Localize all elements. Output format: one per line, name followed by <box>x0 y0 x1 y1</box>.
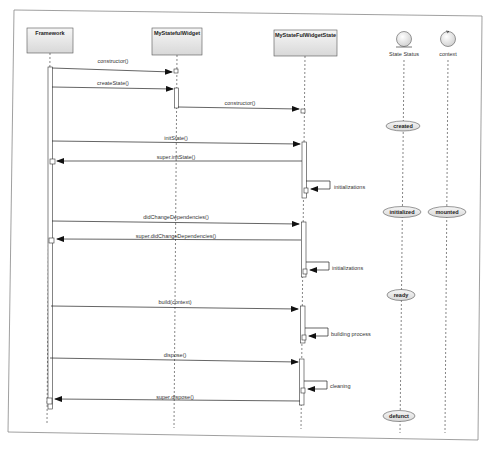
participant-label: State Status <box>389 51 419 57</box>
svg-text:created: created <box>393 123 413 129</box>
participant-label: Framework <box>35 30 65 36</box>
message-label: didChangeDependencies() <box>143 214 209 220</box>
svg-text:ready: ready <box>394 292 410 298</box>
participant-mystatefulwidget: MyStatefulWidget <box>152 28 202 55</box>
message-label: initializations <box>332 265 363 271</box>
message-label: super.initState() <box>157 154 196 160</box>
state-defunct: defunct <box>383 411 415 422</box>
message-label: build(context) <box>158 299 191 305</box>
entity-icon <box>397 32 412 47</box>
sequence-diagram: Framework MyStatefulWidget MyStateFulWid… <box>0 0 489 452</box>
state-created: created <box>386 121 420 131</box>
message-label: building process <box>331 331 371 337</box>
state-mounted: mounted <box>428 207 466 218</box>
message-label: dispose() <box>164 352 187 358</box>
control-icon <box>441 32 456 47</box>
svg-text:mounted: mounted <box>435 209 458 215</box>
state-initialized: initialized <box>383 207 421 218</box>
participant-mystatefulwidgetstate: MyStateFulWidgetState <box>274 30 337 56</box>
message-label: createState() <box>97 80 129 86</box>
state-ready: ready <box>387 290 415 301</box>
participant-framework: Framework <box>27 28 73 53</box>
participant-label: MyStatefulWidget <box>154 30 200 36</box>
participant-label: context <box>439 51 457 57</box>
message-label: initializations <box>334 184 365 190</box>
message-label: super.didChangeDependencies() <box>136 233 217 239</box>
message-label: super.dispose() <box>156 394 194 400</box>
message-label: constructor() <box>98 58 129 64</box>
participant-label: MyStateFulWidgetState <box>275 32 336 38</box>
message-label: initState() <box>164 135 188 141</box>
svg-text:initialized: initialized <box>389 209 414 215</box>
diagram-frame <box>8 10 482 440</box>
message-label: cleaning <box>330 383 351 389</box>
message-label: constructor() <box>225 100 256 106</box>
svg-text:defunct: defunct <box>389 413 409 419</box>
